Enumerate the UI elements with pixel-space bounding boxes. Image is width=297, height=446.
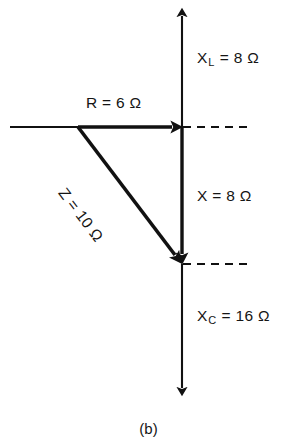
label-xl-symbol: X bbox=[197, 49, 208, 66]
label-x-unit: Ω bbox=[240, 187, 252, 204]
label-xl-unit: Ω bbox=[247, 49, 259, 66]
label-x-value: 8 bbox=[226, 187, 235, 204]
label-xl-value: 8 bbox=[234, 49, 243, 66]
label-x-equals: = bbox=[212, 187, 221, 204]
label-x-symbol: X bbox=[197, 187, 208, 204]
label-r-value: 6 bbox=[116, 94, 125, 111]
label-xc-equals: = bbox=[222, 307, 231, 324]
label-xl-equals: = bbox=[220, 49, 229, 66]
label-xc-value: 16 bbox=[235, 307, 253, 324]
label-r-equals: = bbox=[102, 94, 111, 111]
label-resistance: R = 6 Ω bbox=[86, 95, 142, 111]
impedance-phasor-figure: XL = 8 Ω R = 6 Ω X = 8 Ω XC = 16 Ω Z = 1… bbox=[0, 0, 297, 446]
label-inductive-reactance: XL = 8 Ω bbox=[197, 50, 259, 68]
label-net-reactance: X = 8 Ω bbox=[197, 188, 252, 204]
label-xc-subscript: C bbox=[208, 314, 216, 326]
label-capacitive-reactance: XC = 16 Ω bbox=[197, 308, 270, 326]
label-xc-unit: Ω bbox=[258, 307, 270, 324]
label-r-symbol: R bbox=[86, 94, 98, 111]
label-xc-symbol: X bbox=[197, 307, 208, 324]
figure-caption: (b) bbox=[0, 420, 297, 437]
label-r-unit: Ω bbox=[130, 94, 142, 111]
